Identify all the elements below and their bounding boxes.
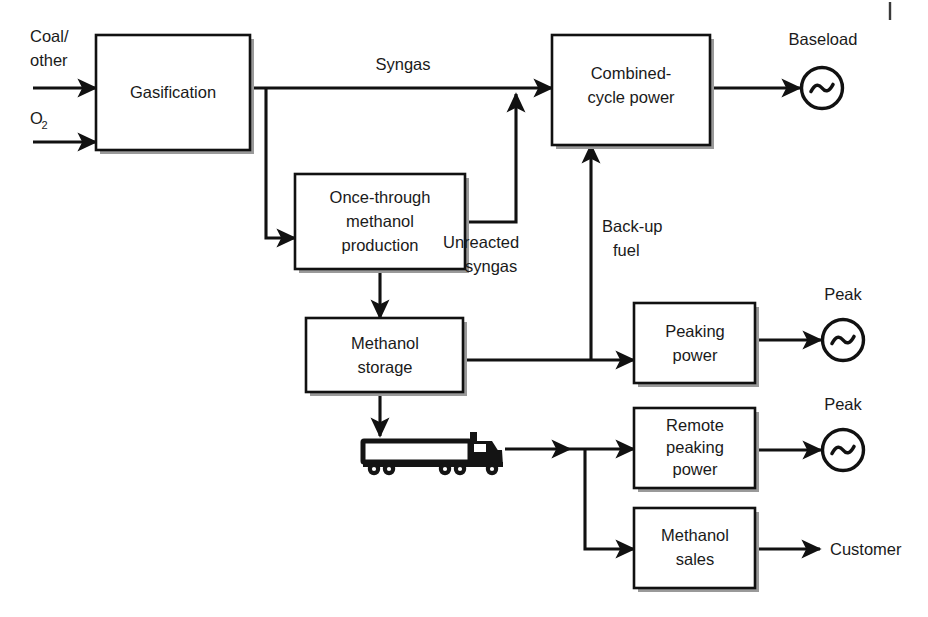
box-methanol-sales[interactable]: Methanol sales <box>634 508 759 592</box>
box-methanol-storage[interactable]: Methanol storage <box>306 318 467 396</box>
diagram-canvas: Gasification Once-through methanol produ… <box>0 0 928 617</box>
process-flow-diagram: Gasification Once-through methanol produ… <box>0 0 928 617</box>
box-gasification-label-line-0: Gasification <box>130 83 216 101</box>
arrow-syngas-to-once-through <box>266 88 295 238</box>
flow-label-unreacted-syngas-line-1: syngas <box>465 257 517 275</box>
box-methanol-sales-label-line-0: Methanol <box>661 526 729 544</box>
tanker-truck-icon <box>363 432 503 475</box>
box-peaking-power-label-line-0: Peaking <box>665 322 725 340</box>
box-gasification[interactable]: Gasification <box>96 35 254 154</box>
input-label-coal-other-line-0: Coal/ <box>30 27 69 45</box>
flow-label-backup-fuel-line-0: Back-up <box>602 217 663 235</box>
box-once-through-methanol-production[interactable]: Once-through methanol production <box>295 174 469 273</box>
flow-label-unreacted-syngas-line-0: Unreacted <box>443 233 519 251</box>
box-peaking-power[interactable]: Peaking power <box>634 303 759 387</box>
output-label-customer: Customer <box>830 540 902 558</box>
output-label-baseload: Baseload <box>789 30 858 48</box>
flow-label-syngas: Syngas <box>375 55 430 73</box>
box-remote-peaking-label-line-2: power <box>673 460 718 478</box>
input-label-coal-other-line-1: other <box>30 51 68 69</box>
flow-label-backup-fuel-line-1: fuel <box>613 241 640 259</box>
input-label-oxygen-subscript: 2 <box>42 119 48 131</box>
input-label-oxygen: O 2 <box>30 109 48 131</box>
arrow-unreacted-syngas-to-combined-cycle <box>465 94 516 222</box>
box-once-through-label-line-0: Once-through <box>330 188 431 206</box>
box-remote-peaking-power[interactable]: Remote peaking power <box>634 408 759 492</box>
box-methanol-storage-label-line-0: Methanol <box>351 334 419 352</box>
generator-icon-baseload <box>802 68 843 109</box>
box-combined-cycle-power[interactable]: Combined- cycle power <box>552 35 714 149</box>
box-methanol-storage-label-line-1: storage <box>357 358 412 376</box>
box-once-through-label-line-1: methanol <box>346 212 414 230</box>
box-methanol-sales-label-line-1: sales <box>676 550 715 568</box>
generator-icon-peak-2 <box>823 430 864 471</box>
box-remote-peaking-label-line-1: peaking <box>666 438 724 456</box>
box-combined-cycle-label-line-1: cycle power <box>587 88 675 106</box>
box-remote-peaking-label-line-0: Remote <box>666 416 724 434</box>
output-label-peak-1: Peak <box>824 285 862 303</box>
box-once-through-label-line-2: production <box>341 236 418 254</box>
arrow-truck-to-methanol-sales <box>585 449 634 549</box>
generator-icon-peak-1 <box>823 320 864 361</box>
box-combined-cycle-label-line-0: Combined- <box>591 64 672 82</box>
output-label-peak-2: Peak <box>824 395 862 413</box>
box-peaking-power-label-line-1: power <box>673 346 718 364</box>
